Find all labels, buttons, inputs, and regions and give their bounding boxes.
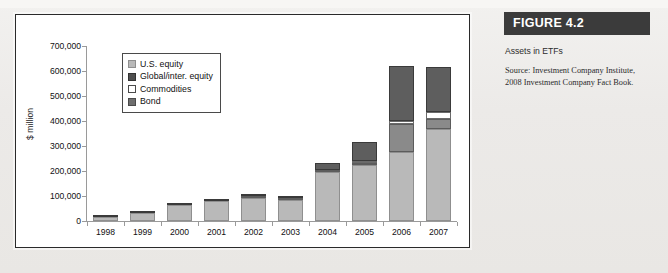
y-axis-tick-label: 500,000 [31, 92, 81, 101]
x-axis-tick-mark [87, 222, 88, 226]
bar-segment-u-s-equity [241, 198, 266, 221]
bar-segment-global-inter-equity [315, 163, 340, 171]
figure-caption-block: FIGURE 4.2 Assets in ETFs Source: Invest… [504, 12, 650, 89]
legend-item-global-equity: Global/inter. equity [128, 71, 213, 84]
x-axis-tick-label: 2007 [429, 227, 448, 237]
x-axis-tick-mark [198, 222, 199, 226]
y-axis-tick-mark [82, 96, 87, 97]
bar-segment-u-s-equity [352, 165, 377, 221]
bar-segment-bond [389, 124, 414, 153]
x-axis-tick-mark [346, 222, 347, 226]
legend-item-bond: Bond [128, 96, 213, 109]
y-axis-tick-label: 400,000 [31, 117, 81, 126]
bar-segment-global-inter-equity [426, 67, 451, 113]
bar-segment-u-s-equity [389, 152, 414, 221]
chart-legend: U.S. equityGlobal/inter. equityCommoditi… [122, 53, 221, 113]
bar-segment-global-inter-equity [352, 142, 377, 161]
legend-item-label: Commodities [140, 85, 191, 94]
bar-2001 [204, 199, 229, 221]
legend-item-label: Bond [140, 97, 161, 106]
bar-2003 [278, 196, 303, 222]
x-axis-tick-mark [383, 222, 384, 226]
x-axis-tick-mark [420, 222, 421, 226]
legend-item-commodities: Commodities [128, 83, 213, 96]
bar-2002 [241, 194, 266, 221]
figure-page: $ million 0100,000200,000300,000400,0005… [0, 0, 668, 273]
x-axis-tick-label: 2005 [355, 227, 374, 237]
x-axis-tick-label: 2004 [318, 227, 337, 237]
y-axis-tick-label: 0 [31, 217, 81, 226]
bar-segment-u-s-equity [278, 200, 303, 221]
x-axis-tick-mark [457, 222, 458, 226]
bar-segment-commodities [426, 112, 451, 119]
bar-segment-u-s-equity [315, 172, 340, 221]
bar-segment-u-s-equity [167, 205, 192, 221]
y-axis-tick-label: 200,000 [31, 167, 81, 176]
bar-2004 [315, 163, 340, 222]
chart-panel: $ million 0100,000200,000300,000400,0005… [15, 14, 470, 248]
x-axis-tick-mark [309, 222, 310, 226]
x-axis-tick-label: 2001 [207, 227, 226, 237]
y-axis-tick-mark [82, 196, 87, 197]
bar-2005 [352, 142, 377, 221]
y-axis-tick-mark [82, 71, 87, 72]
y-axis-tick-label: 300,000 [31, 142, 81, 151]
y-axis-tick-mark [82, 46, 87, 47]
bar-segment-global-inter-equity [389, 66, 414, 121]
x-axis-tick-label: 2002 [244, 227, 263, 237]
bar-2000 [167, 203, 192, 221]
x-axis-tick-mark [124, 222, 125, 226]
y-axis-tick-mark [82, 171, 87, 172]
legend-swatch-icon [128, 73, 136, 81]
legend-swatch-icon [128, 60, 136, 68]
x-axis-tick-label: 2006 [392, 227, 411, 237]
y-axis-tick-label: 700,000 [31, 42, 81, 51]
x-axis-tick-mark [161, 222, 162, 226]
bar-segment-u-s-equity [426, 129, 451, 221]
x-axis-tick-label: 2000 [170, 227, 189, 237]
bar-segment-u-s-equity [130, 213, 155, 221]
legend-swatch-icon [128, 85, 136, 93]
legend-item-label: Global/inter. equity [140, 72, 213, 81]
bar-2007 [426, 67, 451, 222]
x-axis-tick-label: 1998 [96, 227, 115, 237]
figure-source: Source: Investment Company Institute, 20… [504, 65, 635, 89]
x-axis-tick-mark [235, 222, 236, 226]
y-axis-tick-label: 100,000 [31, 192, 81, 201]
figure-number-header: FIGURE 4.2 [504, 12, 650, 35]
x-axis-tick-label: 1999 [133, 227, 152, 237]
legend-item-label: U.S. equity [140, 60, 183, 69]
y-axis-tick-label: 600,000 [31, 67, 81, 76]
bar-1999 [130, 211, 155, 221]
bar-segment-bond [426, 119, 451, 129]
legend-swatch-icon [128, 98, 136, 106]
bar-1998 [93, 215, 118, 221]
plot-wrapper: $ million 0100,000200,000300,000400,0005… [16, 15, 469, 247]
figure-title: Assets in ETFs [504, 46, 650, 56]
y-axis-tick-mark [82, 121, 87, 122]
page-background-highlight [0, 0, 668, 8]
bar-2006 [389, 66, 414, 221]
legend-item-us-equity: U.S. equity [128, 58, 213, 71]
x-axis-tick-mark [272, 222, 273, 226]
y-axis-tick-mark [82, 146, 87, 147]
y-axis-tick-labels: 0100,000200,000300,000400,000500,000600,… [31, 15, 81, 247]
x-axis-tick-label: 2003 [281, 227, 300, 237]
bar-segment-u-s-equity [93, 217, 118, 221]
bar-segment-u-s-equity [204, 201, 229, 221]
